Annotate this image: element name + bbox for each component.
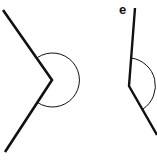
angle-diagram	[0, 0, 157, 161]
angle-rays-right	[129, 8, 157, 135]
figure-label-e: e	[119, 3, 126, 16]
figure-left	[3, 10, 79, 152]
angle-rays-left	[3, 10, 52, 152]
figure-right	[129, 8, 157, 135]
angle-arc-right	[131, 58, 155, 109]
angle-arc-left	[38, 53, 80, 107]
